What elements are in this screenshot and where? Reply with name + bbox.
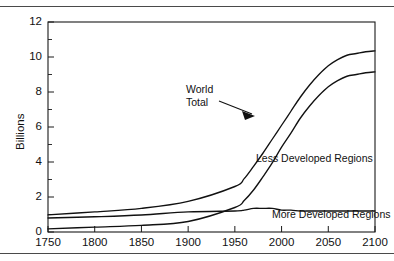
x-tick-label: 1900	[163, 236, 213, 248]
annotation-less-developed-regions: Less Developed Regions	[256, 152, 373, 165]
annotation-world-total-line2: Total	[186, 96, 213, 109]
series-line-world-total	[48, 51, 375, 215]
annotation-world-total-line1: World	[186, 83, 213, 96]
plot-frame	[48, 22, 375, 232]
x-tick-label: 2100	[350, 236, 394, 248]
y-tick-label: 10	[8, 50, 42, 62]
x-tick-label: 1850	[116, 236, 166, 248]
x-tick-label: 1800	[70, 236, 120, 248]
y-tick-label: 2	[8, 190, 42, 202]
annotation-world-total: World Total	[186, 83, 213, 108]
y-tick-label: 4	[8, 155, 42, 167]
y-tick-label: 12	[8, 15, 42, 27]
x-tick-label: 2000	[257, 236, 307, 248]
chart-figure: Billions 024681012 175018001850190019502…	[0, 0, 394, 261]
y-tick-label: 8	[8, 85, 42, 97]
x-tick-label: 1950	[210, 236, 260, 248]
y-tick-label: 6	[8, 120, 42, 132]
x-tick-label: 2050	[303, 236, 353, 248]
x-tick-label: 1750	[23, 236, 73, 248]
y-axis-major-ticks	[48, 22, 54, 232]
annotation-more-developed-regions: More Developed Regions	[272, 208, 390, 221]
chart-plot-svg	[0, 0, 394, 261]
data-series-group	[48, 51, 375, 229]
world-total-arrow-icon	[219, 101, 255, 120]
